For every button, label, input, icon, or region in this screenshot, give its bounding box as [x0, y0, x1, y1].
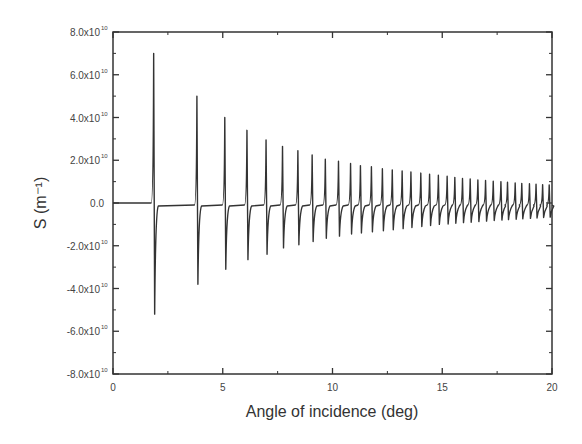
y-tick-label: 2.0x10	[70, 155, 100, 166]
x-tick-label: 20	[546, 382, 558, 393]
y-tick-label: -4.0x10	[67, 284, 101, 295]
y-tick-exponent: 10	[101, 153, 108, 159]
x-axis-title: Angle of incidence (deg)	[246, 403, 419, 420]
y-tick-exponent: 10	[101, 239, 108, 245]
y-tick-label: 4.0x10	[70, 113, 100, 124]
y-tick-label: 8.0x10	[70, 27, 100, 38]
y-axis-title: S (m⁻¹)	[32, 177, 49, 229]
x-tick-label: 15	[437, 382, 449, 393]
y-tick-exponent: 10	[101, 367, 108, 373]
chart: 8.0x10106.0x10104.0x10102.0x10100.0-2.0x…	[0, 0, 582, 444]
y-tick-label: -8.0x10	[67, 369, 101, 380]
y-tick-exponent: 10	[101, 68, 108, 74]
y-tick-label: 6.0x10	[70, 70, 100, 81]
y-tick-label: -6.0x10	[67, 326, 101, 337]
data-line	[113, 53, 554, 314]
x-tick-label: 10	[327, 382, 339, 393]
y-tick-label: 0.0	[90, 198, 104, 209]
x-ticks: 05101520	[110, 32, 558, 393]
y-tick-exponent: 10	[101, 25, 108, 31]
y-tick-exponent: 10	[101, 111, 108, 117]
y-tick-label: -2.0x10	[67, 241, 101, 252]
y-tick-exponent: 10	[101, 324, 108, 330]
y-tick-exponent: 10	[101, 282, 108, 288]
x-tick-label: 0	[110, 382, 116, 393]
x-tick-label: 5	[220, 382, 226, 393]
plot-curve	[113, 53, 554, 314]
